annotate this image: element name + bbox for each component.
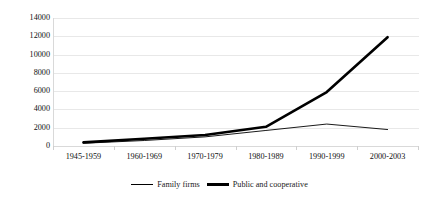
y-axis-tick-label: 14000 [4, 14, 50, 22]
x-axis-tick-label: 1980-1989 [236, 152, 296, 161]
series-line-family-firms [83, 124, 387, 143]
y-axis-tick-label: 2000 [4, 124, 50, 132]
x-axis-tickmark [114, 146, 115, 150]
x-axis-tickmark [53, 146, 54, 150]
chart-legend: Family firmsPublic and cooperative [0, 180, 439, 189]
x-axis-tickmark [236, 146, 237, 150]
x-axis-tick-label: 1970-1979 [175, 152, 235, 161]
x-axis-tickmark [418, 146, 419, 150]
legend-label: Public and cooperative [233, 180, 308, 189]
series-paths [0, 0, 439, 203]
gridline [53, 128, 419, 129]
legend-item[interactable]: Family firms [131, 180, 200, 189]
x-axis-tick-label: 2000-2003 [358, 152, 418, 161]
x-axis-tick-label: 1990-1999 [297, 152, 357, 161]
x-axis-tickmark [357, 146, 358, 150]
x-axis-tick-label: 1945-1959 [53, 152, 113, 161]
legend-swatch-icon [207, 183, 229, 186]
gridline [53, 73, 419, 74]
x-axis-tick-label: 1960-1969 [114, 152, 174, 161]
gridline [53, 55, 419, 56]
y-axis-tick-label: 12000 [4, 32, 50, 40]
y-axis-tick-label: 10000 [4, 51, 50, 59]
legend-item[interactable]: Public and cooperative [207, 180, 308, 189]
legend-label: Family firms [157, 180, 200, 189]
y-axis-labels: 02000400060008000100001200014000 [0, 0, 50, 203]
gridline [53, 18, 419, 19]
y-axis-line [53, 18, 54, 147]
gridline [53, 91, 419, 92]
y-axis-tick-label: 6000 [4, 87, 50, 95]
gridline [53, 36, 419, 37]
y-axis-tick-label: 0 [4, 142, 50, 150]
x-axis-tickmark [296, 146, 297, 150]
gridline [53, 109, 419, 110]
legend-swatch-icon [131, 184, 153, 185]
x-axis-tickmark [175, 146, 176, 150]
y-axis-tick-label: 4000 [4, 105, 50, 113]
line-chart: 02000400060008000100001200014000 1945-19… [0, 0, 439, 203]
series-line-public-and-cooperative [83, 37, 387, 142]
y-axis-tick-label: 8000 [4, 69, 50, 77]
